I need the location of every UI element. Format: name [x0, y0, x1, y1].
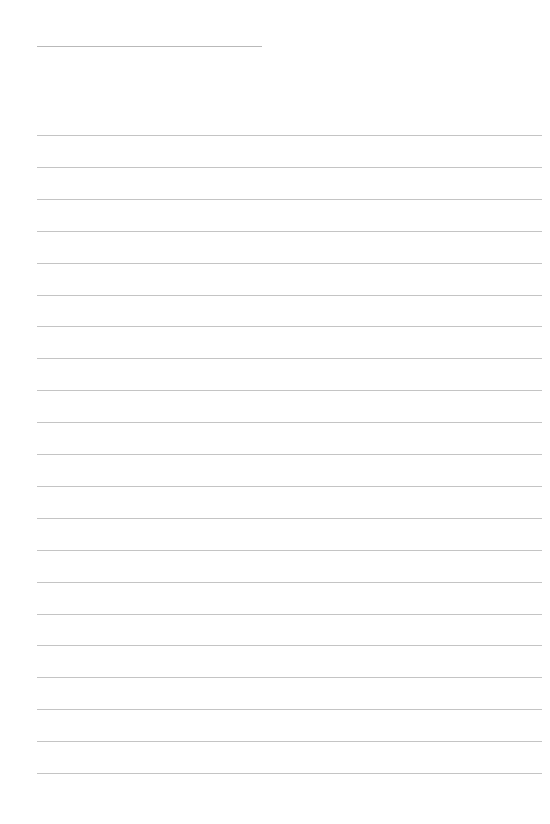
ruled-line	[37, 231, 542, 232]
ruled-line	[37, 263, 542, 264]
ruled-line	[37, 454, 542, 455]
ruled-line	[37, 582, 542, 583]
ruled-line	[37, 486, 542, 487]
ruled-line	[37, 518, 542, 519]
ruled-line	[37, 135, 542, 136]
ruled-line	[37, 199, 542, 200]
ruled-line	[37, 709, 542, 710]
lined-paper-page	[0, 0, 550, 824]
ruled-line	[37, 358, 542, 359]
ruled-line	[37, 167, 542, 168]
ruled-line	[37, 677, 542, 678]
ruled-line	[37, 741, 542, 742]
ruled-line	[37, 390, 542, 391]
ruled-line	[37, 773, 542, 774]
ruled-line	[37, 326, 542, 327]
ruled-line	[37, 422, 542, 423]
ruled-line	[37, 550, 542, 551]
ruled-line	[37, 295, 542, 296]
header-name-line	[37, 46, 262, 47]
ruled-line	[37, 614, 542, 615]
ruled-line	[37, 645, 542, 646]
